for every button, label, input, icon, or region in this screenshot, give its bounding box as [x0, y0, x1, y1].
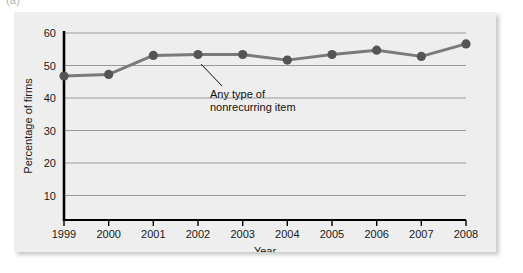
- y-tick-label-60: 60: [44, 27, 56, 39]
- data-point-2002: [193, 50, 202, 59]
- x-tick-label-2002: 2002: [186, 228, 210, 240]
- x-tick-label-2004: 2004: [275, 228, 299, 240]
- x-tick-label-2003: 2003: [230, 228, 254, 240]
- data-point-2000: [104, 70, 113, 79]
- data-point-2001: [149, 51, 158, 60]
- annotation-any-nonrecurring: Any type of nonrecurring item: [210, 88, 296, 113]
- line-chart: 60 50 40 30 20 10: [14, 12, 496, 252]
- data-point-2003: [238, 50, 247, 59]
- data-point-markers: [59, 39, 470, 80]
- chart-card: 60 50 40 30 20 10: [14, 12, 496, 252]
- annotation-line-2: nonrecurring item: [210, 101, 296, 113]
- x-tick-label-2007: 2007: [409, 228, 433, 240]
- y-tick-label-40: 40: [44, 92, 56, 104]
- data-point-2006: [372, 46, 381, 55]
- x-axis-title: Year: [254, 245, 277, 252]
- panel-label: (a): [6, 0, 20, 6]
- x-tick-label-2005: 2005: [320, 228, 344, 240]
- x-tick-label-2008: 2008: [454, 228, 478, 240]
- y-tick-label-10: 10: [44, 190, 56, 202]
- y-axis-tick-labels: 60 50 40 30 20 10: [44, 27, 56, 202]
- data-series-line: [64, 44, 466, 76]
- data-point-2007: [417, 52, 426, 61]
- y-tick-label-50: 50: [44, 60, 56, 72]
- x-tick-label-1999: 1999: [52, 228, 76, 240]
- x-tick-label-2000: 2000: [96, 228, 120, 240]
- data-point-2008: [461, 39, 470, 48]
- figure-root: (a) 60 50 40 30 20 10: [0, 0, 523, 273]
- y-axis-title: Percentage of firms: [22, 78, 34, 174]
- data-point-2005: [327, 50, 336, 59]
- y-tick-label-20: 20: [44, 157, 56, 169]
- data-point-2004: [283, 56, 292, 65]
- x-tick-label-2006: 2006: [364, 228, 388, 240]
- x-tick-label-2001: 2001: [141, 228, 165, 240]
- x-axis-tick-labels: 1999 2000 2001 2002 2003 2004 2005 2006 …: [52, 228, 478, 240]
- y-tick-label-30: 30: [44, 125, 56, 137]
- annotation-line-1: Any type of: [210, 88, 266, 100]
- data-point-1999: [59, 71, 68, 80]
- annotation-leader-line: [201, 64, 222, 86]
